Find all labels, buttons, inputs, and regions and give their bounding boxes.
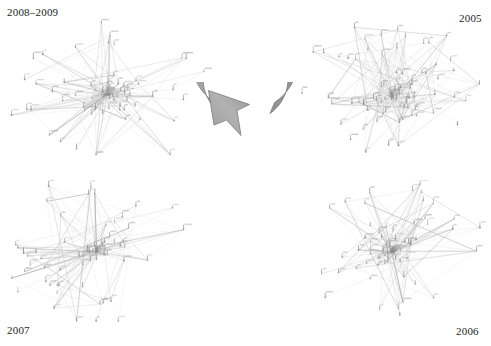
figure-canvas: 2008–2009 2005 2007 2006 [0, 0, 491, 346]
network-panel-2005 [300, 14, 490, 170]
network-graph-svg [4, 180, 194, 324]
cycle-arrow-svg [178, 82, 314, 222]
cycle-arrow-icon [178, 82, 314, 222]
network-panel-2006 [300, 180, 490, 326]
network-panel-2007 [4, 180, 194, 324]
network-graph-svg [300, 14, 490, 170]
period-label-2005: 2005 [459, 12, 482, 24]
cycle-arrow-ring [191, 82, 299, 117]
period-label-2008-2009: 2008–2009 [7, 6, 58, 18]
network-graph-svg [300, 180, 490, 326]
cycle-arrow-head [209, 91, 250, 136]
period-label-2006: 2006 [456, 325, 479, 337]
period-label-2007: 2007 [7, 324, 30, 336]
